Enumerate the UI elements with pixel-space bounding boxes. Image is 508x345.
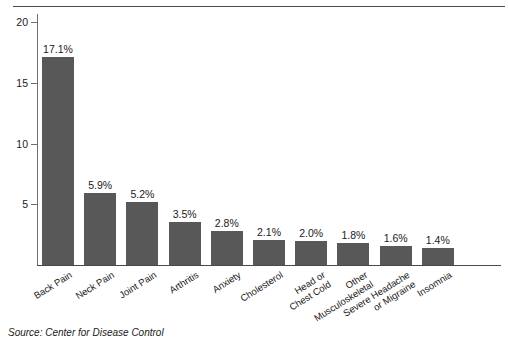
- y-axis-tick-label: 15: [16, 77, 28, 90]
- bar-value-label: 5.2%: [130, 188, 154, 200]
- bar: 2.1%: [253, 240, 285, 266]
- bar: 17.1%: [42, 57, 74, 265]
- bar-value-label: 1.6%: [384, 232, 408, 244]
- y-axis-tick-label: 20: [16, 16, 28, 29]
- bar-value-label: 1.4%: [426, 234, 450, 246]
- bar: 5.9%: [84, 193, 116, 265]
- x-axis-line: [37, 265, 501, 266]
- bar-value-label: 5.9%: [88, 179, 112, 191]
- bar: 1.8%: [337, 243, 369, 265]
- top-rule-divider: [13, 6, 505, 7]
- bar-chart-figure: 5101520 17.1%5.9%5.2%3.5%2.8%2.1%2.0%1.8…: [0, 0, 508, 345]
- bar-value-label: 2.1%: [257, 226, 281, 238]
- bar-value-label: 1.8%: [341, 229, 365, 241]
- bar: 1.6%: [380, 246, 412, 265]
- bar-value-label: 2.8%: [215, 217, 239, 229]
- plot-area: 17.1%5.9%5.2%3.5%2.8%2.1%2.0%1.8%1.6%1.4…: [37, 14, 500, 265]
- bar-value-label: 2.0%: [299, 227, 323, 239]
- y-axis-tick-label: 10: [16, 138, 28, 151]
- bar-value-label: 17.1%: [43, 43, 73, 55]
- source-note: Source: Center for Disease Control: [8, 327, 164, 338]
- bar: 1.4%: [422, 248, 454, 265]
- bar: 2.0%: [295, 241, 327, 265]
- y-axis-tick-label: 5: [22, 198, 28, 211]
- bar: 3.5%: [169, 222, 201, 265]
- bar: 2.8%: [211, 231, 243, 265]
- bar-value-label: 3.5%: [173, 208, 197, 220]
- bar: 5.2%: [126, 202, 158, 265]
